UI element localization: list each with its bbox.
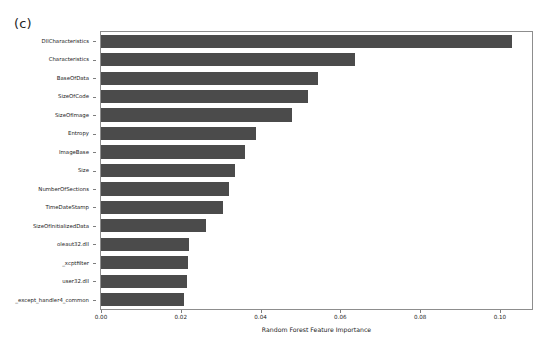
bar-rect (101, 256, 188, 269)
y-tick-mark (93, 134, 96, 135)
bar-rect (101, 108, 292, 121)
x-tick-label: 0.08 (414, 314, 426, 320)
figure-panel-c: (c) DllCharacteristicsCharacteristicsBas… (0, 0, 556, 358)
bar-rect (101, 293, 184, 306)
y-tick-label: user32.dll (62, 272, 89, 290)
y-tick-label: BaseOfData (57, 69, 89, 87)
x-tick-label: 0.06 (334, 314, 346, 320)
y-tick-label: DllCharacteristics (42, 32, 89, 50)
x-tick-mark (500, 310, 501, 313)
y-tick-label: TimeDateStamp (45, 198, 89, 216)
bar-rect (101, 90, 308, 103)
y-tick-mark (93, 281, 96, 282)
y-tick-mark (93, 60, 96, 61)
x-tick-mark (181, 310, 182, 313)
y-tick-label: Characteristics (49, 50, 89, 68)
panel-label: (c) (14, 16, 32, 31)
y-tick-mark (93, 189, 96, 190)
x-tick-label: 0.10 (494, 314, 506, 320)
x-tick-label: 0.00 (95, 314, 107, 320)
bar-rect (101, 35, 512, 48)
y-tick-mark (93, 207, 96, 208)
y-tick-label: ImageBase (59, 143, 89, 161)
bar-rect (101, 53, 355, 66)
x-tick-label: 0.04 (254, 314, 266, 320)
bar-rect (101, 145, 245, 158)
x-tick-mark (420, 310, 421, 313)
y-tick-mark (93, 115, 96, 116)
bar-rect (101, 164, 235, 177)
y-tick-label: SizeOfImage (55, 106, 89, 124)
y-tick-label: Entropy (68, 124, 89, 142)
y-tick-mark (93, 97, 96, 98)
y-tick-label: SizeOfCode (58, 87, 89, 105)
y-tick-mark (93, 171, 96, 172)
y-tick-mark (93, 41, 96, 42)
y-axis-tick-labels: DllCharacteristicsCharacteristicsBaseOfD… (0, 32, 96, 309)
bar-rect (101, 127, 256, 140)
y-tick-label: NumberOfSections (38, 180, 89, 198)
x-axis-title: Random Forest Feature Importance (100, 326, 533, 333)
x-tick-mark (340, 310, 341, 313)
y-tick-mark (93, 244, 96, 245)
y-tick-label: oleaut32.dll (57, 235, 89, 253)
y-tick-mark (93, 78, 96, 79)
y-tick-mark (93, 152, 96, 153)
x-tick-mark (101, 310, 102, 313)
bar-rect (101, 182, 229, 195)
bar-rect (101, 238, 189, 251)
bar-rect (101, 275, 187, 288)
y-tick-label: _xcptfilter (62, 254, 89, 272)
y-tick-label: _except_handler4_common (15, 291, 89, 309)
x-tick-label: 0.02 (175, 314, 187, 320)
bar-rect (101, 219, 206, 232)
y-tick-mark (93, 300, 96, 301)
bar-rect (101, 201, 223, 214)
y-tick-label: Size (78, 161, 89, 179)
x-tick-mark (261, 310, 262, 313)
y-tick-mark (93, 226, 96, 227)
y-tick-label: SizeOfInitializedData (33, 217, 89, 235)
bar-rect (101, 72, 318, 85)
y-tick-mark (93, 263, 96, 264)
bar-series (101, 32, 533, 309)
